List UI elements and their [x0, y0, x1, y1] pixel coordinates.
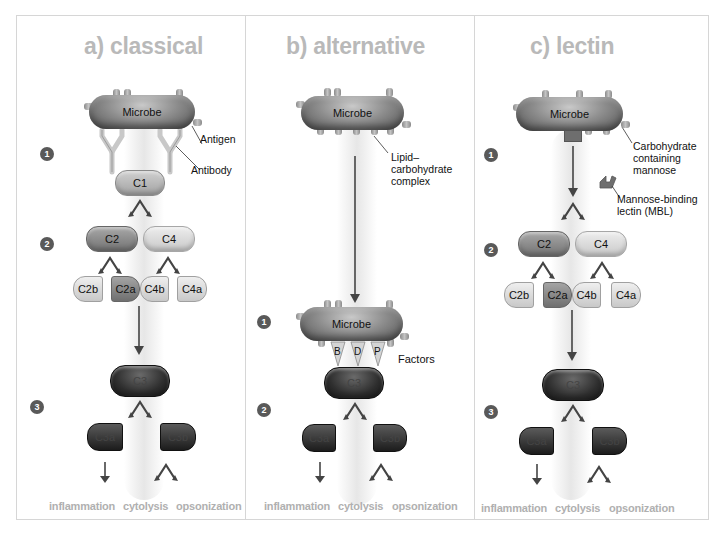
split-arrow-icon — [154, 461, 178, 483]
split-arrow-icon — [531, 259, 555, 281]
mbl-label-line1: Mannose-binding — [617, 193, 698, 205]
factor-b: B — [334, 346, 341, 358]
fragment-c4a: C4a — [611, 282, 641, 308]
lipid-carbohydrate-label-line2: carbohydrate — [391, 163, 452, 175]
step-badge-2: 2 — [484, 243, 498, 257]
outcome-cytolysis: cytolysis — [555, 502, 600, 514]
factors-label: Factors — [398, 353, 435, 365]
fragment-c4b: C4b — [140, 276, 169, 302]
fragment-label: C3b — [599, 435, 619, 447]
down-arrow-icon — [100, 462, 110, 484]
microbe: Microbe — [300, 307, 403, 341]
split-arrow-icon — [128, 197, 152, 219]
microbe: Microbe — [89, 95, 195, 129]
fragment-label: C2b — [78, 283, 98, 295]
fragment-c3b: C3b — [592, 427, 627, 455]
component-c4: C4 — [575, 231, 627, 257]
down-arrow-icon — [315, 462, 325, 484]
factor-d: D — [354, 346, 361, 358]
split-arrow-icon — [587, 463, 611, 485]
surface-spike — [402, 121, 411, 128]
component-c3: C3 — [110, 365, 170, 397]
panel-divider — [245, 15, 246, 520]
outcome-opsonization: opsonization — [609, 502, 674, 514]
step-badge-1: 1 — [484, 148, 498, 162]
panel-title: b) alternative — [286, 33, 425, 60]
outcome-inflammation: inflammation — [264, 500, 330, 512]
split-arrow-icon — [590, 259, 614, 281]
component-c3: C3 — [324, 367, 384, 399]
outcome-inflammation: inflammation — [481, 502, 547, 514]
microbe: Microbe — [516, 97, 623, 131]
component-c2: C2 — [518, 231, 570, 257]
fragment-label: C4b — [576, 289, 596, 301]
fragment-label: C2a — [547, 289, 567, 301]
fragment-label: C3a — [526, 435, 546, 447]
fragment-c3a: C3a — [519, 427, 554, 455]
bound-mbl-icon — [564, 130, 582, 142]
carbohydrate-label-line3: mannose — [633, 164, 676, 176]
component-c2: C2 — [86, 226, 138, 252]
carbohydrate-label-line1: Carbohydrate — [633, 140, 697, 152]
fragment-label: C4a — [616, 289, 636, 301]
panel-divider — [474, 15, 475, 520]
lipid-carbohydrate-label-line3: complex — [391, 175, 430, 187]
down-arrow-icon — [134, 306, 144, 356]
antibody-label: Antibody — [191, 164, 232, 176]
split-arrow-icon — [128, 398, 152, 420]
step-badge-2: 2 — [40, 237, 54, 251]
fragment-label: C3b — [168, 431, 188, 443]
fragment-label: C3a — [309, 432, 329, 444]
split-arrow-icon — [561, 402, 585, 424]
fragment-label: C3a — [95, 431, 115, 443]
fragment-label: C4a — [182, 283, 202, 295]
down-arrow-icon — [567, 310, 577, 362]
microbe: Microbe — [301, 96, 404, 130]
outcome-opsonization: opsonization — [392, 500, 457, 512]
antigen-label: Antigen — [200, 133, 236, 145]
fragment-c3b: C3b — [373, 424, 407, 452]
fragment-label: C2b — [509, 289, 529, 301]
fragment-c2b: C2b — [73, 276, 103, 302]
fragment-label: C2a — [115, 283, 135, 295]
mbl-label-line2: lectin (MBL) — [617, 205, 673, 217]
split-arrow-icon — [369, 461, 393, 483]
step-badge-1: 1 — [257, 315, 271, 329]
fragment-c2b: C2b — [504, 282, 534, 308]
component-c1: C1 — [115, 170, 165, 196]
down-arrow-icon — [568, 146, 578, 198]
fragment-c2a: C2a — [111, 276, 140, 302]
panel-title: c) lectin — [530, 33, 614, 60]
carbohydrate-spike — [621, 121, 630, 128]
outcome-opsonization: opsonization — [176, 500, 241, 512]
carbohydrate-label-line2: containing — [633, 152, 681, 164]
fragment-label: C4b — [144, 283, 164, 295]
fragment-c3a: C3a — [87, 423, 123, 451]
outcome-cytolysis: cytolysis — [338, 500, 383, 512]
surface-spike — [400, 333, 409, 340]
outcome-cytolysis: cytolysis — [123, 500, 168, 512]
outcome-inflammation: inflammation — [49, 500, 115, 512]
fragment-c4a: C4a — [177, 276, 207, 302]
annotation-leader-line — [372, 134, 392, 158]
lipid-carbohydrate-label-line1: Lipid– — [391, 151, 419, 163]
fragment-c3b: C3b — [160, 423, 196, 451]
down-arrow-icon — [350, 156, 360, 304]
split-arrow-icon — [561, 200, 585, 222]
panel-title: a) classical — [84, 33, 203, 60]
step-badge-3: 3 — [484, 405, 498, 419]
fragment-label: C3b — [380, 432, 400, 444]
split-arrow-icon — [98, 254, 122, 276]
antigen-spike — [193, 119, 202, 126]
step-badge-2: 2 — [257, 403, 271, 417]
component-c4: C4 — [143, 226, 195, 252]
fragment-c2a: C2a — [543, 282, 572, 308]
fragment-c4b: C4b — [572, 282, 601, 308]
step-badge-3: 3 — [30, 400, 44, 414]
split-arrow-icon — [156, 254, 180, 276]
step-badge-1: 1 — [40, 147, 54, 161]
split-arrow-icon — [343, 400, 367, 422]
factor-p: P — [374, 346, 381, 358]
component-c3: C3 — [542, 369, 604, 401]
fragment-c3a: C3a — [302, 424, 336, 452]
